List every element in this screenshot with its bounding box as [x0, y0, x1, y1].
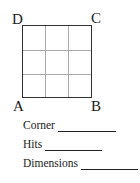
- field-label: Corner: [23, 119, 55, 132]
- grid-square: [22, 25, 92, 98]
- dimensions-answer-blank[interactable]: [81, 160, 138, 170]
- grid-line: [23, 74, 91, 75]
- grid-line: [68, 26, 69, 97]
- field-dimensions: Dimensions: [23, 157, 138, 170]
- hits-answer-blank[interactable]: [45, 141, 102, 151]
- field-corner: Corner: [23, 119, 116, 132]
- corner-label-a: A: [13, 99, 24, 114]
- corner-label-b: B: [91, 99, 101, 114]
- field-hits: Hits: [23, 138, 102, 151]
- field-label: Hits: [23, 138, 42, 151]
- corner-answer-blank[interactable]: [58, 122, 116, 132]
- grid-line: [23, 50, 91, 51]
- corner-label-c: C: [91, 11, 101, 26]
- grid-line: [45, 26, 46, 97]
- field-label: Dimensions: [23, 157, 78, 170]
